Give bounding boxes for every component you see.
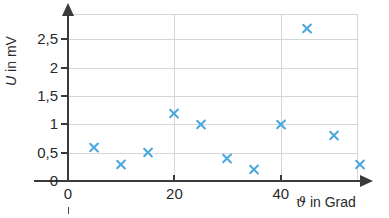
gridline-horizontal xyxy=(68,68,358,69)
gridline-horizontal xyxy=(68,153,358,154)
y-axis-tick-mark xyxy=(61,180,68,182)
gridline-vertical xyxy=(174,14,175,181)
gridline-horizontal xyxy=(68,96,358,97)
origin-tick-marker xyxy=(68,207,69,214)
y-axis-tick-mark xyxy=(61,38,68,40)
gridline-horizontal xyxy=(68,39,358,40)
x-axis-arrow-icon xyxy=(360,175,373,187)
x-axis-tick-label: 0 xyxy=(45,186,91,201)
x-axis-unit: in Grad xyxy=(306,194,356,210)
y-axis-tick-mark xyxy=(61,123,68,125)
x-axis-tick-label: 20 xyxy=(151,186,197,201)
data-point-marker xyxy=(221,152,234,165)
data-point-marker xyxy=(88,141,101,154)
x-axis-title: ϑ in Grad xyxy=(296,194,356,210)
y-axis-arrow-icon xyxy=(62,3,74,16)
data-point-marker xyxy=(168,107,181,120)
scatter-chart-figure: 00,511,522,5 02040 U in mV ϑ in Grad xyxy=(0,0,389,218)
data-point-marker xyxy=(195,118,208,131)
y-axis-unit: in mV xyxy=(3,36,19,76)
grid-border-top xyxy=(68,14,358,15)
data-point-marker xyxy=(354,158,367,171)
data-point-marker xyxy=(301,22,314,35)
y-axis-tick-mark xyxy=(61,95,68,97)
gridline-horizontal xyxy=(68,124,358,125)
x-axis-symbol: ϑ xyxy=(296,194,306,210)
data-point-marker xyxy=(274,118,287,131)
x-axis-tick-mark xyxy=(280,175,282,182)
plot-area xyxy=(68,14,358,181)
y-axis-symbol: U xyxy=(3,76,19,86)
x-axis-tick-mark xyxy=(173,175,175,182)
y-axis-tick-mark xyxy=(61,67,68,69)
data-point-marker xyxy=(328,129,341,142)
data-point-marker xyxy=(141,146,154,159)
y-axis-tick-label: 0,5 xyxy=(0,145,58,160)
data-point-marker xyxy=(115,158,128,171)
data-point-marker xyxy=(248,163,261,176)
y-axis-title: U in mV xyxy=(3,21,19,101)
y-axis-tick-mark xyxy=(61,152,68,154)
gridline-vertical xyxy=(281,14,282,181)
x-axis-line xyxy=(34,180,363,182)
y-axis-tick-label: 1 xyxy=(0,116,58,131)
